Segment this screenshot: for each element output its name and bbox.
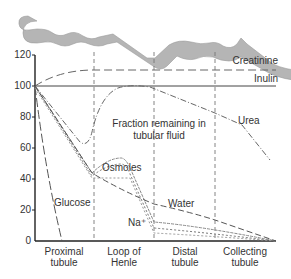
- series-na: [35, 86, 276, 241]
- label-inulin: Inulin: [254, 73, 278, 84]
- svg-text:20: 20: [20, 204, 32, 215]
- series-osmoles-2: [35, 88, 276, 241]
- nephron-illustration: [19, 16, 291, 81]
- label-water: Water: [168, 198, 195, 209]
- svg-text:120: 120: [14, 49, 31, 60]
- label-glucose: Glucose: [54, 197, 91, 208]
- label-fraction-line2: tubular fluid: [133, 130, 185, 141]
- series-creatinine: [35, 70, 276, 86]
- axes: [35, 55, 276, 241]
- svg-text:Distal: Distal: [172, 246, 197, 257]
- svg-text:Proximal: Proximal: [45, 246, 84, 257]
- svg-text:80: 80: [20, 111, 32, 122]
- label-creatinine: Creatinine: [232, 55, 278, 66]
- y-tick-labels: 0 20 40 60 80 100 120: [14, 49, 31, 246]
- svg-text:40: 40: [20, 173, 32, 184]
- x-segment-labels: Proximal tubule Loop of Henle Distal tub…: [45, 246, 267, 268]
- label-na: Na⁺: [128, 217, 146, 228]
- renal-handling-chart: 0 20 40 60 80 100 120 Creatinine Inulin …: [0, 0, 291, 279]
- label-fraction-line1: Fraction remaining in: [112, 118, 205, 129]
- svg-text:60: 60: [20, 142, 32, 153]
- svg-text:Collecting: Collecting: [223, 246, 267, 257]
- label-osmoles: Osmoles: [102, 162, 141, 173]
- svg-text:tubule: tubule: [50, 257, 78, 268]
- segment-dividers: [94, 52, 215, 241]
- svg-text:100: 100: [14, 80, 31, 91]
- svg-text:Henle: Henle: [111, 257, 138, 268]
- label-urea: Urea: [238, 115, 260, 126]
- series-water: [35, 86, 276, 241]
- svg-text:tubule: tubule: [231, 257, 259, 268]
- svg-text:tubule: tubule: [171, 257, 199, 268]
- svg-text:Loop of: Loop of: [107, 246, 141, 257]
- svg-text:0: 0: [25, 235, 31, 246]
- series-osmoles: [35, 86, 276, 241]
